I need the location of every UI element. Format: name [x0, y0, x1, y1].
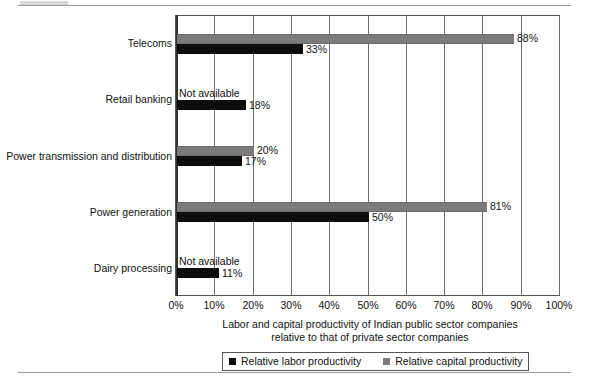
gridline-80: [482, 16, 483, 295]
gridline-70: [444, 16, 445, 295]
axis-title-line-1: Labor and capital productivity of Indian…: [175, 318, 565, 331]
legend-label-capital: Relative capital productivity: [395, 355, 522, 367]
x-tick-100: 100%: [546, 299, 573, 311]
bar-capital-3: [177, 202, 487, 212]
gridline-50: [368, 16, 369, 295]
bar-labor-0: [177, 44, 303, 54]
bar-label-labor-4: 11%: [222, 268, 242, 279]
not-available-note-4: Not available: [179, 256, 240, 267]
bar-labor-4: [177, 268, 219, 278]
y-axis-label-0: Telecoms: [0, 37, 172, 49]
bar-label-labor-1: 18%: [249, 100, 270, 111]
y-axis-category-labels: TelecomsRetail bankingPower transmission…: [0, 15, 172, 296]
not-available-note-1: Not available: [179, 88, 240, 99]
y-axis-label-2: Power transmission and distribution: [0, 150, 172, 162]
x-tick-0: 0%: [168, 299, 183, 311]
legend-swatch-capital-icon: [383, 358, 390, 365]
bar-labor-2: [177, 156, 242, 166]
x-tick-20: 20%: [242, 299, 263, 311]
legend-label-labor: Relative labor productivity: [241, 355, 361, 367]
legend-item-labor: Relative labor productivity: [229, 355, 361, 367]
y-axis-label-3: Power generation: [0, 206, 172, 218]
gridline-90: [521, 16, 522, 295]
bar-capital-0: [177, 34, 514, 44]
axis-title-line-2: relative to that of private sector compa…: [175, 331, 565, 344]
gridline-40: [329, 16, 330, 295]
y-axis-label-4: Dairy processing: [0, 262, 172, 274]
x-tick-70: 70%: [433, 299, 454, 311]
x-tick-30: 30%: [280, 299, 301, 311]
x-tick-50: 50%: [357, 299, 378, 311]
chart-legend: Relative labor productivity Relative cap…: [222, 352, 529, 371]
y-axis-label-1: Retail banking: [0, 93, 172, 105]
x-tick-60: 60%: [395, 299, 416, 311]
gridline-100: [559, 16, 560, 295]
x-tick-40: 40%: [318, 299, 339, 311]
bar-label-capital-3: 81%: [490, 201, 511, 212]
bar-label-capital-0: 88%: [517, 33, 538, 44]
x-axis-title: Labor and capital productivity of Indian…: [175, 318, 565, 343]
legend-item-capital: Relative capital productivity: [383, 355, 522, 367]
bar-capital-2: [177, 146, 254, 156]
bar-labor-1: [177, 100, 246, 110]
gridline-30: [291, 16, 292, 295]
x-tick-80: 80%: [471, 299, 492, 311]
bar-label-labor-0: 33%: [306, 44, 327, 55]
bar-labor-3: [177, 212, 369, 222]
bar-label-labor-3: 50%: [372, 212, 393, 223]
x-tick-10: 10%: [203, 299, 224, 311]
x-axis-tick-labels: 0%10%20%30%40%50%60%70%80%90%100%: [175, 299, 560, 315]
legend-swatch-labor-icon: [229, 358, 236, 365]
gridline-60: [406, 16, 407, 295]
x-tick-90: 90%: [510, 299, 531, 311]
plot-area: 88%33%Not available18%20%17%81%50%Not av…: [175, 15, 560, 296]
bar-label-labor-2: 17%: [245, 156, 266, 167]
bar-chart: TelecomsRetail bankingPower transmission…: [0, 0, 589, 385]
